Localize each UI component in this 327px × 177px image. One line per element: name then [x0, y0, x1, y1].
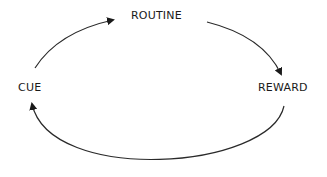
habit-loop-diagram: ROUTINE CUE REWARD [0, 0, 327, 177]
arrow-routine-to-reward [207, 22, 281, 74]
arrow-reward-to-cue [32, 104, 284, 159]
arrow-cue-to-routine [35, 20, 113, 68]
node-cue: CUE [18, 82, 41, 93]
node-routine: ROUTINE [131, 10, 182, 21]
node-reward: REWARD [258, 82, 308, 93]
